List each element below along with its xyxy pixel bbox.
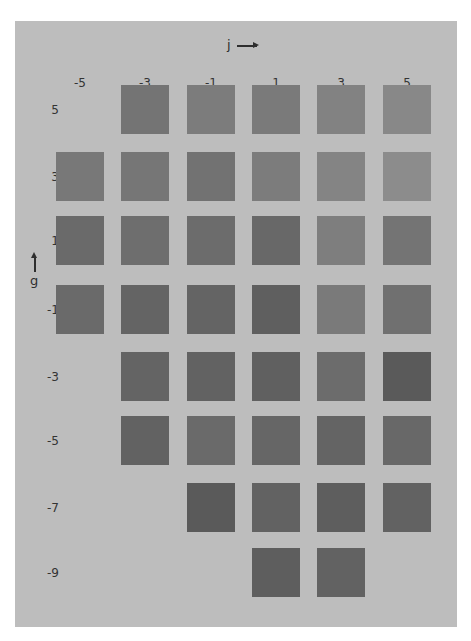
row-label: -9 — [29, 567, 59, 579]
grey-square — [383, 483, 431, 532]
grey-square — [383, 85, 431, 134]
y-axis-title: g — [30, 274, 38, 287]
grey-square — [121, 285, 169, 334]
column-label: -5 — [56, 77, 104, 89]
grey-square — [187, 152, 235, 201]
grey-square — [121, 152, 169, 201]
row-label: 5 — [29, 104, 59, 116]
x-axis-title: j — [227, 38, 231, 51]
grey-square — [252, 416, 300, 465]
row-label: 1 — [29, 235, 59, 247]
grey-square — [187, 85, 235, 134]
grey-square — [317, 216, 365, 265]
grey-square — [252, 216, 300, 265]
chart-panel: j g -5-3-1135 531-1-3-5-7-9 — [15, 21, 457, 627]
grey-square — [121, 216, 169, 265]
grey-square — [317, 483, 365, 532]
grey-square — [121, 85, 169, 134]
row-label: -5 — [29, 435, 59, 447]
grey-square — [187, 216, 235, 265]
grey-square — [383, 216, 431, 265]
x-axis-arrow-icon — [237, 45, 257, 47]
grey-square — [56, 152, 104, 201]
row-label: -3 — [29, 371, 59, 383]
row-label: 3 — [29, 171, 59, 183]
grey-square — [317, 285, 365, 334]
grey-square — [187, 416, 235, 465]
grey-square — [383, 152, 431, 201]
grey-square — [187, 285, 235, 334]
grey-square — [252, 548, 300, 597]
grey-square — [383, 352, 431, 401]
grey-square — [317, 152, 365, 201]
grey-square — [252, 352, 300, 401]
grey-square — [121, 352, 169, 401]
grey-square — [187, 352, 235, 401]
grey-square — [317, 352, 365, 401]
grey-square — [252, 483, 300, 532]
grey-square — [383, 285, 431, 334]
grey-square — [317, 85, 365, 134]
row-label: -1 — [29, 304, 59, 316]
grey-square — [252, 85, 300, 134]
grey-square — [187, 483, 235, 532]
y-axis-arrow-icon — [34, 257, 36, 272]
grey-square — [56, 285, 104, 334]
grey-square — [252, 285, 300, 334]
grey-square — [383, 416, 431, 465]
grey-square — [56, 216, 104, 265]
grey-square — [317, 416, 365, 465]
grey-square — [317, 548, 365, 597]
row-label: -7 — [29, 502, 59, 514]
grey-square — [252, 152, 300, 201]
grey-square — [121, 416, 169, 465]
